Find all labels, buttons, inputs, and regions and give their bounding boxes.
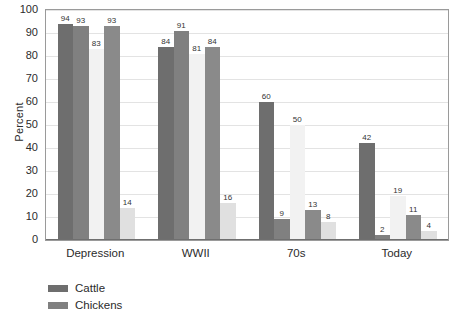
x-tick-label: Depression [66,246,124,260]
y-tick-label: 30 [26,165,38,176]
x-axis-tick-labels: DepressionWWII70sToday [45,246,449,264]
bar-value-label: 93 [107,16,116,25]
y-tick-label: 70 [26,73,38,84]
bar: 84 [158,47,174,240]
bar-value-label: 93 [76,16,85,25]
bar: 8 [321,222,337,240]
legend-swatch [48,302,68,309]
bar: 42 [359,143,375,240]
y-tick-label: 0 [32,234,38,245]
bar: 16 [220,203,236,240]
y-tick-label: 60 [26,96,38,107]
bar-group: 8491818416 [147,10,248,240]
bar-value-label: 60 [262,92,271,101]
bar-value-label: 11 [409,205,417,214]
bar-value-label: 2 [380,225,384,234]
legend-label: Chickens [75,299,122,312]
bar: 93 [104,26,120,240]
bar-value-label: 4 [427,221,431,230]
x-tick-label: Today [381,246,412,260]
bar-value-label: 16 [223,193,232,202]
bar-value-label: 84 [161,37,170,46]
bar: 84 [205,47,221,240]
legend-item: Chickens [48,298,122,313]
bar-value-label: 19 [393,186,402,195]
bar: 13 [305,210,321,240]
bar-value-label: 81 [192,44,201,53]
y-tick-label: 10 [26,211,38,222]
y-tick-label: 50 [26,119,38,130]
bar-value-label: 14 [123,198,132,207]
bar-value-label: 8 [326,212,330,221]
bar: 19 [390,196,406,240]
bar-value-label: 94 [61,14,70,23]
bar: 93 [73,26,89,240]
x-axis-baseline [46,239,448,240]
bar: 9 [274,219,290,240]
bar-value-label: 84 [208,37,217,46]
bar-value-label: 83 [92,39,101,48]
y-tick-label: 20 [26,188,38,199]
legend: CattleChickens [48,281,122,315]
y-axis-tick-labels: 1009080706050403020100 [0,0,42,317]
bar-value-label: 50 [293,115,302,124]
y-tick-label: 90 [26,27,38,38]
bar: 94 [58,24,74,240]
bar: 14 [120,208,136,240]
bar: 91 [174,31,190,240]
bar-group: 9493839314 [46,10,147,240]
y-tick-label: 100 [20,4,38,15]
bar-value-label: 42 [362,133,371,142]
bar: 83 [89,49,105,240]
bar-group: 60950138 [247,10,348,240]
x-tick-label: WWII [182,246,210,260]
bar: 11 [406,215,422,240]
legend-label: Cattle [75,282,105,295]
bar-group: 42219114 [348,10,449,240]
legend-item: Cattle [48,281,122,296]
bar: 60 [259,102,275,240]
plot-area: 949383931484918184166095013842219114 [45,9,449,241]
bar-chart: Percent 1009080706050403020100 949383931… [0,0,454,317]
y-tick-label: 80 [26,50,38,61]
bar: 81 [189,54,205,240]
legend-swatch [48,285,68,292]
bar-value-label: 13 [308,200,317,209]
bar-value-label: 9 [280,209,284,218]
bar: 50 [290,125,306,240]
bar-value-label: 91 [177,21,186,30]
x-tick-label: 70s [287,246,306,260]
bar-groups: 949383931484918184166095013842219114 [46,10,448,240]
y-tick-label: 40 [26,142,38,153]
